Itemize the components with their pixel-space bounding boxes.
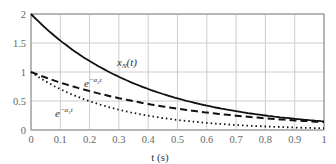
x-tick-label: 0.3	[112, 134, 125, 145]
exp-alpha1-label: e−α1t	[55, 106, 74, 119]
grid-lines	[31, 14, 324, 130]
y-tick-label: 0.5	[13, 96, 26, 107]
x-tick-label: 0.5	[171, 134, 184, 145]
x-tick-label: 0.6	[200, 134, 213, 145]
y-tick-label: 2	[21, 9, 26, 20]
y-tick-label: 1.5	[13, 38, 26, 49]
x-tick-label: 0	[28, 134, 33, 145]
y-tick-label: 1	[21, 67, 26, 78]
x-tick-label: 0.4	[142, 134, 156, 145]
decay-chart: 00.10.20.30.40.50.60.70.80.9100.511.52 x…	[0, 0, 336, 164]
x-axis-label: t (s)	[151, 151, 169, 164]
x-tick-label: 1	[321, 134, 326, 145]
exp-alpha2-label: e−α2t	[84, 76, 103, 89]
x-tick-label: 0.8	[259, 134, 272, 145]
xn-label: xN(t)	[116, 56, 137, 70]
x-tick-label: 0.2	[83, 134, 96, 145]
x-tick-label: 0.9	[288, 134, 301, 145]
x-tick-label: 0.1	[54, 134, 67, 145]
x-tick-label: 0.7	[230, 134, 243, 145]
y-tick-label: 0	[21, 125, 26, 136]
